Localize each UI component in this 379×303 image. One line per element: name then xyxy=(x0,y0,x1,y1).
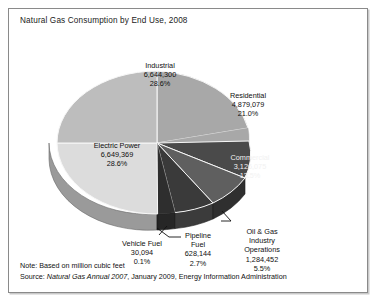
pie-label-pipeline-fuel-name1: Pipeline xyxy=(174,231,222,240)
pie-label-pipeline-fuel-value: 628,144 xyxy=(174,249,222,258)
pie-label-residential-percent: 21.0% xyxy=(205,109,291,118)
footnote-source-title: Natural Gas Annual 2007 xyxy=(47,272,127,281)
pie-label-residential-value: 4,879,079 xyxy=(205,100,291,109)
pie-chart-svg xyxy=(9,23,367,241)
pie-label-electric-power-name: Electric Power xyxy=(69,141,165,150)
pie-label-commercial: Commercial 3,126,075 13.5% xyxy=(207,153,293,181)
pie-label-pipeline-fuel-name2: Fuel xyxy=(174,240,222,249)
pie-label-oil-gas-name1: Oil & Gas xyxy=(227,227,297,236)
footnote-source: Source: Natural Gas Annual 2007, January… xyxy=(20,272,287,283)
pie-label-vehicle-fuel-value: 30,094 xyxy=(105,248,179,257)
footnote-note: Note: Based on million cubic feet xyxy=(20,261,287,272)
pie-label-electric-power-percent: 28.6% xyxy=(69,159,165,168)
footnote-source-rest: , January 2009, Energy Information Admin… xyxy=(127,272,286,281)
pie-label-industrial-name: Industrial xyxy=(117,61,203,70)
chart-frame: Natural Gas Consumption by End Use, 2008 xyxy=(8,8,368,293)
pie-chart: Industrial 6,644,300 28.6% Residential 4… xyxy=(9,23,367,241)
pie-label-electric-power: Electric Power 6,649,369 28.6% xyxy=(69,141,165,169)
pie-label-industrial-value: 6,644,300 xyxy=(117,70,203,79)
pie-label-residential: Residential 4,879,079 21.0% xyxy=(205,91,291,119)
pie-label-commercial-value: 3,126,075 xyxy=(207,162,293,171)
chart-footnotes: Note: Based on million cubic feet Source… xyxy=(20,261,287,282)
pie-label-electric-power-value: 6,649,369 xyxy=(69,150,165,159)
pie-label-commercial-name: Commercial xyxy=(207,153,293,162)
pie-label-commercial-percent: 13.5% xyxy=(207,171,293,180)
pie-label-industrial: Industrial 6,644,300 28.6% xyxy=(117,61,203,89)
pie-label-vehicle-fuel-name: Vehicle Fuel xyxy=(105,239,179,248)
pie-label-oil-gas-name2: Industry xyxy=(227,236,297,245)
footnote-source-prefix: Source: xyxy=(20,272,47,281)
pie-label-oil-gas-name3: Operations xyxy=(227,245,297,254)
pie-label-industrial-percent: 28.6% xyxy=(117,79,203,88)
pie-label-residential-name: Residential xyxy=(205,91,291,100)
